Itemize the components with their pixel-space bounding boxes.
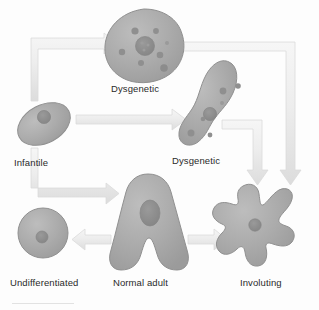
cell-involuting bbox=[213, 184, 295, 266]
nucleus bbox=[136, 37, 155, 56]
cell-dysgenetic-top bbox=[105, 9, 184, 83]
cell-label-dysgenetic-mid: Dysgenetic bbox=[172, 155, 220, 166]
nucleus bbox=[249, 219, 261, 231]
nucleus bbox=[140, 200, 160, 226]
arrow-dysgenetic-mid-to-involuting bbox=[222, 120, 268, 185]
cell-label-infantile: Infantile bbox=[14, 157, 48, 168]
nucleus bbox=[36, 231, 48, 243]
cell-normal-adult bbox=[110, 174, 189, 270]
arrow-infantile-to-dysgenetic-top bbox=[31, 33, 117, 101]
cell-label-dysgenetic-top: Dysgenetic bbox=[111, 83, 159, 94]
cell-dysgenetic-mid bbox=[179, 61, 241, 145]
cell-state-diagram bbox=[0, 0, 319, 310]
arrow-infantile-to-dysgenetic-mid bbox=[76, 109, 186, 130]
cell-label-involuting: Involuting bbox=[240, 277, 282, 288]
arrow-normal-adult-to-undifferentiated bbox=[72, 229, 111, 250]
cell-label-normal-adult: Normal adult bbox=[113, 277, 168, 288]
cell-infantile bbox=[10, 94, 77, 154]
footer-divider bbox=[12, 303, 74, 304]
cell-label-undifferentiated: Undifferentiated bbox=[10, 277, 79, 288]
nucleus bbox=[37, 110, 50, 123]
nucleus bbox=[203, 107, 216, 120]
diagram-canvas: Dysgenetic Infantile Dysgenetic Undiffer… bbox=[0, 0, 319, 310]
cell-undifferentiated bbox=[18, 208, 68, 258]
